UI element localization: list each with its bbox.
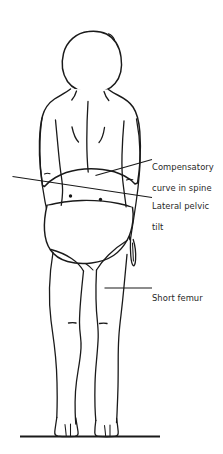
leg-right-inner	[95, 270, 98, 421]
hip-briefs-outline	[44, 206, 133, 264]
label-compensatory-curve-line1: Compensatory	[152, 162, 214, 172]
anatomical-illustration: Compensatory curve in spine Lateral pelv…	[0, 0, 223, 454]
leg-left-outer	[49, 253, 57, 418]
torso-outline	[39, 89, 140, 187]
label-lateral-pelvic-tilt-line1: Lateral pelvic	[152, 201, 209, 211]
psis-left-dot	[69, 194, 72, 197]
psis-right-dot	[99, 198, 102, 201]
foot-right-outline	[95, 419, 118, 437]
label-lateral-pelvic-tilt: Lateral pelvic tilt	[152, 191, 222, 233]
head-hair-outline	[62, 31, 121, 92]
leg-left-inner	[75, 271, 83, 424]
label-short-femur-line1: Short femur	[152, 293, 203, 303]
label-lateral-pelvic-tilt-line2: tilt	[152, 222, 163, 232]
leg-right-outer	[117, 255, 128, 423]
toe-lines-left	[65, 424, 71, 436]
label-short-femur: Short femur	[152, 283, 222, 304]
label-compensatory-curve: Compensatory curve in spine	[152, 152, 222, 194]
toe-lines-right	[105, 425, 111, 436]
hand-right-finger-line	[133, 243, 134, 261]
brief-gluteal-fold	[86, 264, 94, 271]
